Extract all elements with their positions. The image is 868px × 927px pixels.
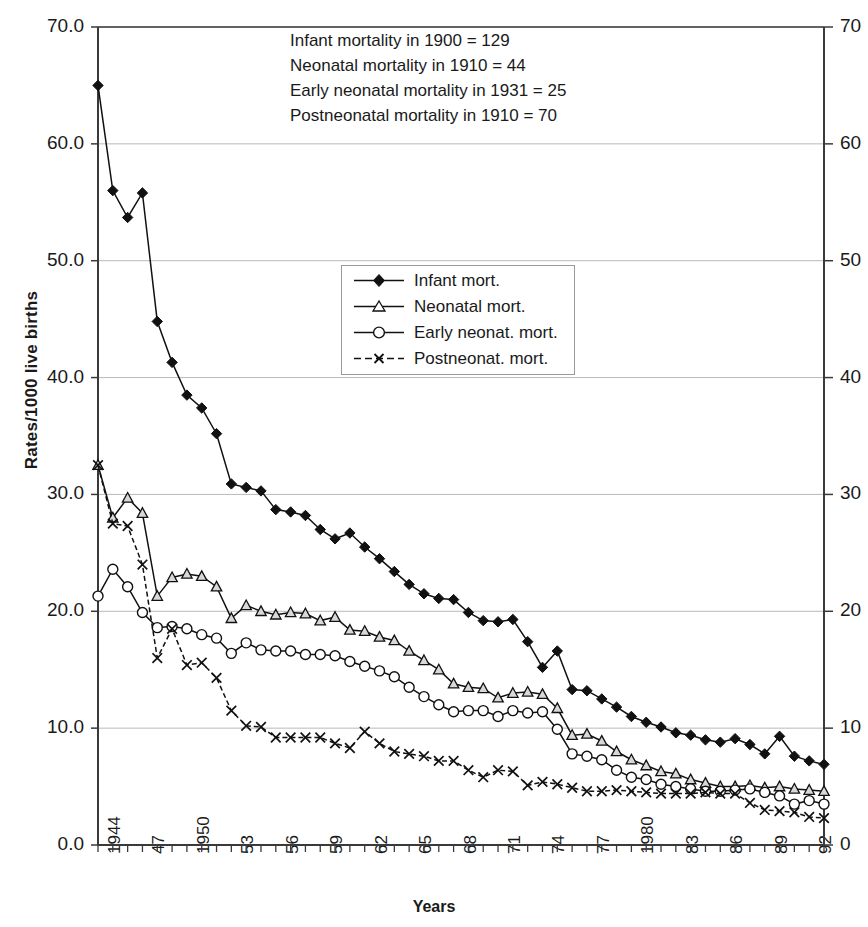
data-point-marker <box>93 80 103 90</box>
data-point-marker <box>597 755 607 765</box>
data-point-marker <box>478 772 488 782</box>
data-point-marker <box>374 632 384 642</box>
data-point-marker <box>775 791 785 801</box>
data-point-marker <box>552 724 562 734</box>
legend-label: Postneonat. mort. <box>414 346 548 371</box>
data-point-marker <box>152 653 162 663</box>
cross-x-marker <box>350 346 408 371</box>
data-point-marker <box>345 657 355 667</box>
data-point-marker <box>463 706 473 716</box>
data-point-marker <box>597 736 607 746</box>
data-point-marker <box>611 746 621 756</box>
data-point-marker <box>404 682 414 692</box>
data-point-marker <box>582 686 592 696</box>
data-point-marker <box>627 786 637 796</box>
data-point-marker <box>685 774 695 784</box>
data-point-marker <box>108 185 118 195</box>
legend-label: Neonatal mort. <box>414 294 526 319</box>
data-point-marker <box>641 717 651 727</box>
data-point-marker <box>256 645 266 655</box>
data-point-marker <box>626 772 636 782</box>
data-point-marker <box>330 534 340 544</box>
data-point-marker <box>389 672 399 682</box>
data-point-marker <box>537 707 547 717</box>
data-point-marker <box>197 658 207 668</box>
data-point-marker <box>330 612 340 622</box>
data-point-marker <box>122 212 132 222</box>
data-point-marker <box>434 664 444 674</box>
data-point-marker <box>685 730 695 740</box>
data-point-marker <box>212 673 222 683</box>
series-cross-x <box>93 460 829 823</box>
data-point-marker <box>523 781 533 791</box>
data-point-marker <box>152 316 162 326</box>
data-point-marker <box>345 743 355 753</box>
data-point-marker <box>582 729 592 739</box>
data-point-marker <box>182 624 192 634</box>
data-point-marker <box>775 806 785 816</box>
data-point-marker <box>478 615 488 625</box>
series-open-circle <box>93 564 829 809</box>
open-triangle-marker <box>350 294 408 319</box>
data-point-marker <box>137 607 147 617</box>
data-point-marker <box>567 684 577 694</box>
data-point-marker <box>493 711 503 721</box>
data-point-marker <box>419 655 429 665</box>
data-point-marker <box>182 568 192 578</box>
data-point-marker <box>671 728 681 738</box>
filled-diamond-marker <box>350 268 408 293</box>
data-point-marker <box>612 765 622 775</box>
data-point-marker <box>715 737 725 747</box>
data-point-marker <box>641 760 651 770</box>
data-point-marker <box>804 756 814 766</box>
data-point-marker <box>493 617 503 627</box>
data-point-marker <box>730 733 740 743</box>
data-point-marker <box>611 702 621 712</box>
data-point-marker <box>522 687 532 697</box>
data-point-marker <box>211 428 221 438</box>
data-point-marker <box>93 591 103 601</box>
data-point-marker <box>330 739 340 749</box>
series-line <box>98 465 824 818</box>
data-point-marker <box>464 765 474 775</box>
data-point-marker <box>241 600 251 610</box>
data-point-marker <box>745 798 755 808</box>
legend-label: Infant mort. <box>414 268 500 293</box>
data-point-marker <box>597 694 607 704</box>
open-circle-marker <box>350 320 408 345</box>
data-point-marker <box>419 692 429 702</box>
data-point-marker <box>819 759 829 769</box>
data-point-marker <box>286 646 296 656</box>
data-point-marker <box>567 749 577 759</box>
data-point-marker <box>404 646 414 656</box>
data-point-marker <box>226 648 236 658</box>
data-point-marker <box>123 521 133 531</box>
data-point-marker <box>271 646 281 656</box>
series-line <box>98 569 824 804</box>
data-point-marker <box>226 479 236 489</box>
chart-legend: Infant mort. Neonatal mort. Early neonat… <box>341 265 575 375</box>
data-point-marker <box>227 706 237 716</box>
data-point-marker <box>434 700 444 710</box>
data-point-marker <box>123 582 133 592</box>
chart-plot-area <box>0 0 868 927</box>
data-point-marker <box>449 707 459 717</box>
data-point-marker <box>256 606 266 616</box>
data-point-marker <box>212 633 222 643</box>
data-point-marker <box>138 560 148 570</box>
data-point-marker <box>789 751 799 761</box>
legend-label: Early neonat. mort. <box>414 320 558 345</box>
data-point-marker <box>508 614 518 624</box>
data-point-marker <box>285 607 295 617</box>
data-point-marker <box>819 799 829 809</box>
data-point-marker <box>419 589 429 599</box>
series-line <box>98 85 824 764</box>
data-point-marker <box>774 781 784 791</box>
series-filled-diamond <box>93 80 829 769</box>
data-point-marker <box>375 739 385 749</box>
data-point-marker <box>211 581 221 591</box>
data-point-marker <box>375 666 385 676</box>
data-point-marker <box>315 650 325 660</box>
data-point-marker <box>522 636 532 646</box>
data-point-marker <box>656 766 666 776</box>
